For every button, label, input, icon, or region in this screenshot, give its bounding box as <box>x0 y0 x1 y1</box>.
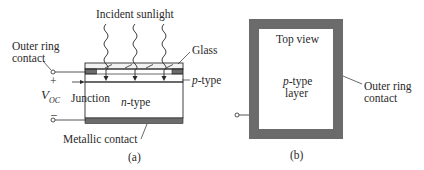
p-type-label-b: p-type <box>283 75 312 87</box>
glass-label: Glass <box>192 44 218 56</box>
outer-ring-contact-right <box>172 69 183 74</box>
p-type-layer <box>85 69 183 82</box>
metallic-contact <box>85 118 183 124</box>
caption-b: (b) <box>290 149 303 161</box>
p-type-label-a: p-type <box>192 74 221 86</box>
leader-outer-ring-b <box>343 76 362 84</box>
caption-a: (a) <box>128 151 141 163</box>
top-view-label: Top view <box>276 33 319 45</box>
minus-sign: – <box>51 108 57 120</box>
leader-glass <box>178 52 190 64</box>
terminal-positive <box>51 70 55 74</box>
outer-ring-contact-left <box>86 69 97 74</box>
incident-sunlight-label: Incident sunlight <box>96 8 174 20</box>
outer-ring-contact-label-b-line1: Outer ring <box>364 80 412 92</box>
outer-ring-contact-label-a-line1: Outer ring <box>12 40 60 52</box>
metallic-contact-label: Metallic contact <box>63 133 137 145</box>
junction-label: Junction <box>71 92 110 104</box>
leader-metallic <box>141 124 147 139</box>
plus-sign: + <box>50 75 57 87</box>
ray-arrowheads <box>104 76 167 81</box>
layer-label: layer <box>285 87 308 99</box>
outer-ring-contact-label-a-line2: contact <box>12 52 45 64</box>
terminal-b <box>235 113 239 117</box>
sunlight-rays <box>104 24 166 78</box>
outer-ring-contact-label-b-line2: contact <box>364 92 397 104</box>
voc-label: VOC <box>41 89 60 107</box>
glass-layer <box>85 63 183 69</box>
n-type-label: n-type <box>121 96 150 108</box>
